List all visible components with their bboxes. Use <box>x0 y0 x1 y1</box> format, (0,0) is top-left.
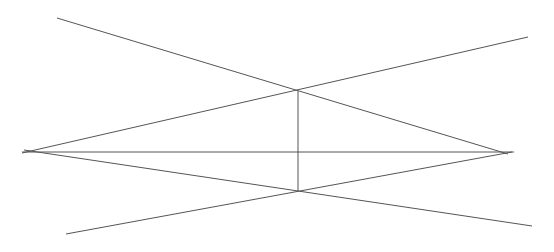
line-lower-left-to-right-vertex <box>66 152 512 234</box>
line-upper-left-to-right-vertex <box>57 18 508 154</box>
line-upper-right-to-left-vertex <box>22 37 528 153</box>
diagram-canvas <box>0 0 554 252</box>
line-lower-right-to-left-vertex <box>24 150 532 226</box>
line-diagram <box>0 0 554 252</box>
